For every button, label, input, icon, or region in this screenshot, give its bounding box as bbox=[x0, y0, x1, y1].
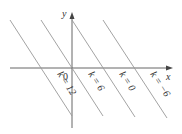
level-lines-diagram: y x 0 k = 12 k = 6 k = 0 k = −6 bbox=[0, 0, 182, 134]
label-k0: k = 0 bbox=[117, 69, 138, 93]
level-line-k0 bbox=[72, 20, 135, 117]
y-axis-label: y bbox=[61, 8, 67, 19]
label-k6: k = 6 bbox=[86, 69, 107, 93]
y-axis-arrow-icon bbox=[70, 12, 75, 19]
x-axis-arrow-icon bbox=[166, 66, 173, 71]
